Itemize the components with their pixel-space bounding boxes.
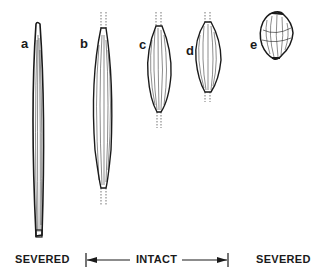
arrow-right-icon — [217, 257, 227, 263]
panel-label-d: d — [186, 43, 194, 58]
panel-label-e: e — [250, 37, 257, 52]
panel-label-c: c — [139, 37, 146, 52]
muscle-e-severed — [260, 12, 293, 59]
caption-severed-right: SEVERED — [256, 253, 311, 265]
muscle-d-intact — [196, 12, 221, 102]
arrow-left-icon — [87, 257, 97, 263]
muscle-c-intact — [148, 12, 171, 128]
caption-intact: INTACT — [136, 253, 177, 265]
caption-severed-left: SEVERED — [15, 253, 70, 265]
panel-label-a: a — [21, 36, 28, 51]
muscle-diagram — [0, 0, 322, 275]
muscle-b-intact — [93, 12, 111, 205]
muscle-a-severed — [33, 23, 44, 238]
panel-label-b: b — [80, 36, 88, 51]
